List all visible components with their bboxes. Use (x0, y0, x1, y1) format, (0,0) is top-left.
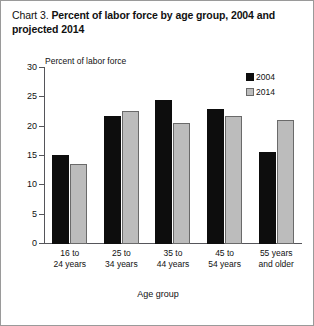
y-tick-label: 5 (7, 210, 37, 219)
bar-2004-4 (207, 109, 224, 244)
legend-item-2004: 2004 (246, 71, 275, 83)
bar-group (147, 68, 199, 244)
y-axis-label: Percent of labor force (45, 56, 126, 66)
x-category-label-line: 55 years (246, 248, 306, 259)
gray-square-swatch-icon (246, 88, 254, 96)
black-square-swatch-icon (246, 73, 254, 81)
bar-group (96, 68, 148, 244)
bar-group (199, 68, 251, 244)
plot-wrapper: Percent of labor force 051015202530 16 t… (1, 1, 314, 326)
x-category-label: 55 yearsand older (246, 248, 306, 270)
y-tick-label-group: 051015202530 (1, 1, 37, 326)
bar-2014-4 (225, 116, 242, 244)
bar-group (44, 68, 96, 244)
chart-figure: Chart 3. Percent of labor force by age g… (0, 0, 314, 326)
y-tick-label: 25 (7, 92, 37, 101)
y-tick-label: 30 (7, 63, 37, 72)
x-axis-title: Age group (1, 289, 314, 299)
bar-2014-2 (122, 111, 139, 244)
bar-2014-1 (70, 164, 87, 244)
bar-2014-5 (277, 120, 294, 244)
y-tick-label: 20 (7, 122, 37, 131)
y-tick-label: 15 (7, 151, 37, 160)
legend-label-2004: 2004 (256, 71, 275, 83)
y-tick-label: 0 (7, 239, 37, 248)
y-tick-label: 10 (7, 180, 37, 189)
x-category-label-line: and older (246, 259, 306, 270)
chart-legend: 2004 2014 (246, 71, 275, 101)
bar-2004-1 (52, 155, 69, 244)
bar-2004-3 (155, 100, 172, 244)
bar-2014-3 (173, 123, 190, 244)
bar-2004-5 (259, 152, 276, 244)
legend-item-2014: 2014 (246, 86, 275, 98)
bar-2004-2 (104, 116, 121, 244)
legend-label-2014: 2014 (256, 86, 275, 98)
